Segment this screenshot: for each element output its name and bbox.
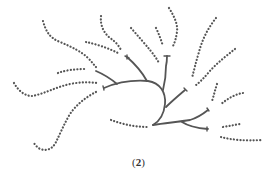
figure-caption: (2): [0, 156, 277, 168]
dotted-branches: [14, 8, 263, 150]
caption-close: ): [141, 156, 145, 168]
branching-tree-diagram: [0, 0, 277, 180]
solid-branches: [96, 55, 209, 131]
